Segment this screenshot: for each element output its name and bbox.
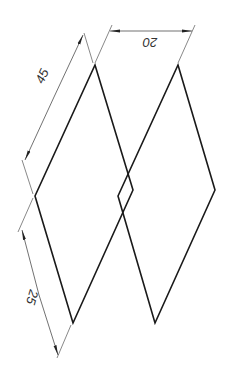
dimension-label-45: 45 (32, 66, 52, 86)
right-rhombus (118, 65, 215, 323)
dimension-label-25: 25 (23, 287, 42, 307)
drawing-canvas: 20 45 25 (0, 0, 229, 371)
dimension-25: 25 (18, 198, 71, 358)
dimension-45: 45 (22, 33, 93, 194)
dimension-label-20: 20 (142, 35, 158, 50)
dimension-20: 20 (95, 25, 195, 63)
